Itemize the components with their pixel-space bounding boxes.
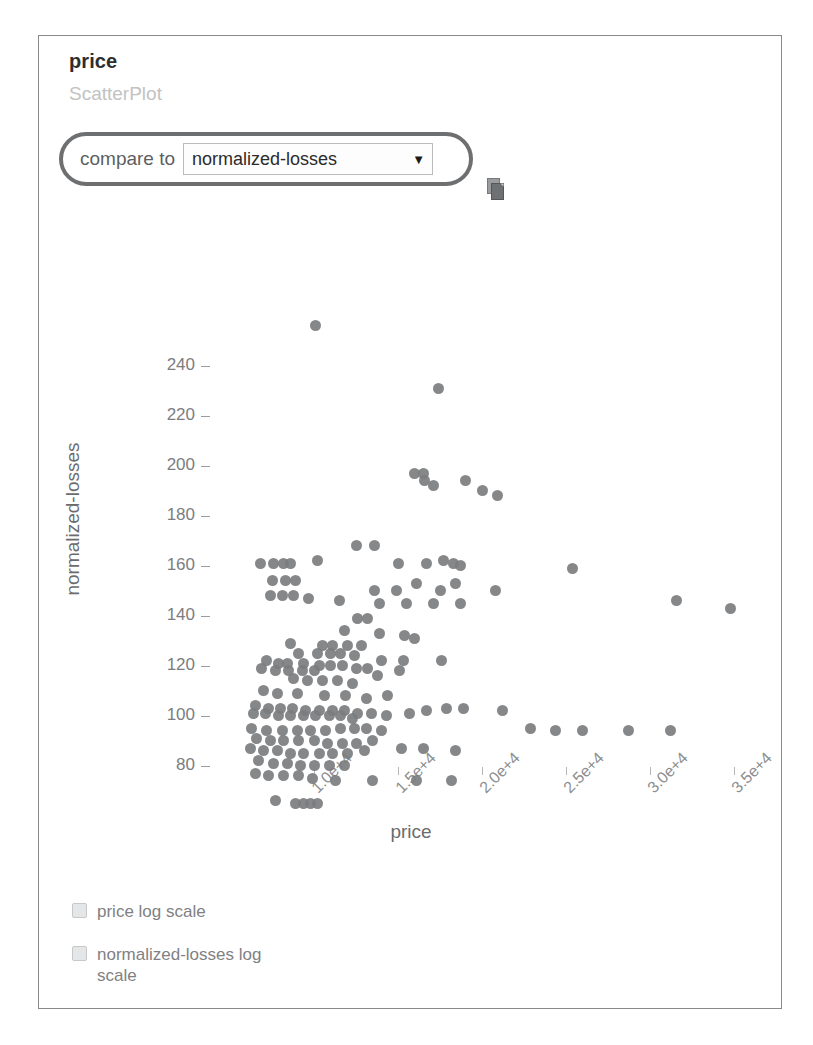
scatter-point [250,768,261,779]
y-axis-tick-mark [201,666,210,667]
scatter-point [272,745,283,756]
scatter-point [665,725,676,736]
scatter-point [497,705,508,716]
scatter-point [319,690,330,701]
scatter-point [298,710,309,721]
y-axis-tick-mark [201,616,210,617]
scatter-point [525,723,536,734]
scatter-point [339,625,350,636]
y-axis-tick-mark [201,766,210,767]
checkbox-row[interactable]: price log scale [72,901,206,922]
scatter-point [267,575,278,586]
scatter-point [374,628,385,639]
y-axis-tick-label: 240 [139,355,195,375]
scatter-point [367,775,378,786]
scatter-point [411,578,422,589]
checkbox-label: normalized-losses log scale [97,944,287,986]
scatter-point [278,770,289,781]
scatter-point [320,725,331,736]
scatter-point [623,725,634,736]
scatter-point [411,775,422,786]
scatter-point [265,590,276,601]
x-axis-tick-label: 2.0e+4 [476,749,524,797]
y-axis-tick-label: 160 [139,555,195,575]
scatter-point [367,735,378,746]
scatter-point [310,710,321,721]
scatter-point [270,795,281,806]
y-axis-tick-mark [201,466,210,467]
scatter-point [317,675,328,686]
scatter-point [381,710,392,721]
x-axis-tick-label: 1.5e+4 [392,749,440,797]
scatter-point [369,585,380,596]
y-axis-tick-label: 220 [139,405,195,425]
scatter-point [335,648,346,659]
checkbox-label: price log scale [97,901,206,922]
scatter-point [455,560,466,571]
scatter-point [361,723,372,734]
scatter-point [292,688,303,699]
scatter-point [441,703,452,714]
scatter-point [277,590,288,601]
screenshot-root: price ScatterPlot compare to normalized-… [0,0,813,1045]
y-axis-tick-label: 80 [139,755,195,775]
scatter-point [396,743,407,754]
scatter-point [263,770,274,781]
scatter-point [421,705,432,716]
scatter-point [376,725,387,736]
scatter-point [312,555,323,566]
scatter-point [282,758,293,769]
x-axis-tick-mark [650,767,651,775]
scatter-point [285,558,296,569]
scatter-point [255,558,266,569]
scatter-point [303,593,314,604]
y-axis-title: normalized-losses [62,419,84,619]
scatter-point [330,775,341,786]
y-axis-tick-label: 100 [139,705,195,725]
scatter-point [302,675,313,686]
checkbox-input[interactable] [72,903,87,918]
scatter-point [374,598,385,609]
scatter-point [409,633,420,644]
scatter-point [285,710,296,721]
scatter-point [288,673,299,684]
scatter-point [307,773,318,784]
scatter-point [332,675,343,686]
scatter-point [248,708,259,719]
checkbox-row[interactable]: normalized-losses log scale [72,944,287,986]
scatter-point [446,775,457,786]
x-axis-tick-mark [482,767,483,775]
scatter-point [376,655,387,666]
scatter-point [369,540,380,551]
scatter-point [288,590,299,601]
scatter-point [293,770,304,781]
scatter-point [450,578,461,589]
scatter-point [337,660,348,671]
scatter-point [351,663,362,674]
scatter-point [577,725,588,736]
x-axis-tick-label: 3.0e+4 [644,749,692,797]
scatter-point [325,660,336,671]
scatter-point [492,490,503,501]
scatter-point [428,480,439,491]
scatter-point [312,798,323,809]
scatter-point [450,745,461,756]
scatter-point [309,760,320,771]
y-axis-tick-label: 140 [139,605,195,625]
checkbox-input[interactable] [72,946,87,961]
scatter-point [253,755,264,766]
scatter-point [314,748,325,759]
scatter-point [418,743,429,754]
scatter-point [460,475,471,486]
x-axis-title: price [39,821,783,843]
scatter-point [272,688,283,699]
y-axis-tick-mark [201,716,210,717]
scatter-point [436,655,447,666]
scatter-point [372,670,383,681]
scatter-point [455,598,466,609]
scatter-point [290,575,301,586]
scatter-point [309,735,320,746]
scatter-point [671,595,682,606]
scatter-point [312,648,323,659]
y-axis-tick-mark [201,366,210,367]
